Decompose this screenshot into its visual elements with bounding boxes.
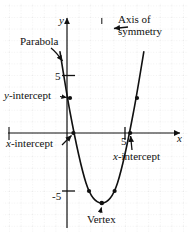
point-right-lower — [113, 189, 117, 193]
label-vertex: Vertex — [87, 214, 116, 226]
point-right-branch — [135, 96, 139, 100]
x-tick-label-5: 5 — [121, 135, 127, 147]
point-left-lower — [87, 189, 91, 193]
label-axis-of-symmetry: Axis of symmetry — [118, 14, 162, 38]
y-tick-label-5: 5 — [55, 70, 61, 82]
point-x-intercept-right — [128, 131, 132, 135]
label-x-intercept-right-text: -intercept — [118, 150, 160, 162]
point-vertex — [100, 201, 105, 206]
label-axis-of-symmetry-line1: Axis of — [118, 13, 151, 25]
x-axis-label: x — [177, 132, 182, 144]
label-y-intercept: y-intercept — [4, 90, 51, 102]
parabola-figure: y x 5 -5 5 Parabola Axis of symmetry y-i… — [0, 0, 191, 235]
label-x-intercept-left: x-intercept — [6, 138, 53, 150]
label-parabola: Parabola — [20, 36, 58, 48]
y-axis-label: y — [59, 14, 64, 26]
point-x-intercept-left — [71, 131, 75, 135]
label-y-intercept-text: -intercept — [9, 89, 51, 101]
label-x-intercept-right: x-intercept — [113, 151, 160, 163]
y-tick-label-minus-5: -5 — [52, 190, 61, 202]
label-x-intercept-left-text: -intercept — [11, 137, 53, 149]
label-axis-of-symmetry-line2: symmetry — [118, 25, 162, 37]
point-y-intercept — [68, 96, 72, 100]
